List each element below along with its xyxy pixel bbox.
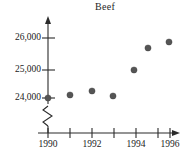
plot-area	[0, 0, 182, 154]
data-point	[131, 67, 137, 73]
beef-scatter-chart: Beef 26,000 25,00	[0, 0, 182, 154]
data-point	[89, 88, 95, 94]
y-axis-label-24000: 24,000	[0, 93, 41, 103]
x-axis-label-1990: 1990	[28, 140, 68, 150]
x-axis-arrow-icon	[172, 130, 180, 136]
y-axis-break-icon	[43, 106, 52, 126]
data-point	[45, 95, 51, 101]
x-axis-label-1996: 1996	[150, 140, 182, 150]
data-point	[110, 93, 116, 99]
data-point	[145, 45, 151, 51]
y-axis-label-25000: 25,000	[0, 65, 41, 75]
x-axis-label-1992: 1992	[72, 140, 112, 150]
data-point	[166, 39, 172, 45]
y-axis-label-26000: 26,000	[0, 33, 41, 43]
y-axis-arrow-icon	[45, 16, 51, 24]
data-point	[67, 92, 73, 98]
